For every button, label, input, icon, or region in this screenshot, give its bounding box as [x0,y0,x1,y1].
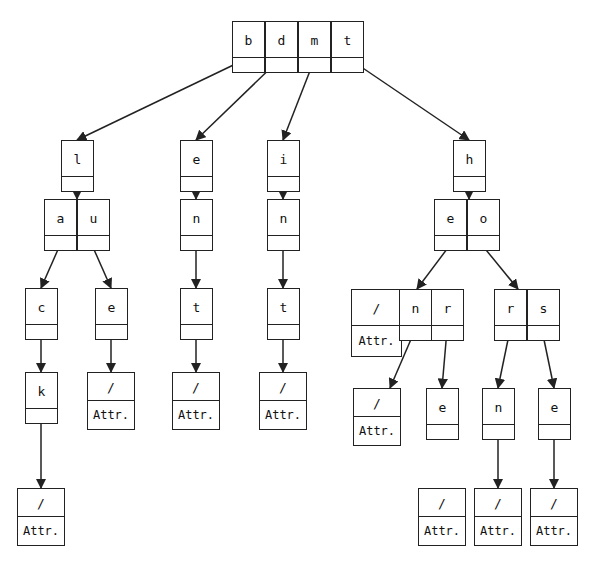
trie-diagram: bdmtlauck/Attr.e/Attr.ent/Attr.int/Attr.… [0,0,596,561]
pointer-cell [232,57,265,73]
key-cell: e [538,388,571,426]
pointer-cell [331,57,364,73]
edge-arrow [417,245,450,289]
key-cell: / [351,289,402,327]
key-cell: r [494,289,527,327]
key-cell: c [25,288,58,326]
key-cell: t [180,288,213,326]
key-cell: n [482,388,515,426]
key-cell: u [77,199,110,237]
terminator-cell: / [259,372,307,402]
key-cell: d [265,21,298,59]
attr-cell: Attr. [259,400,307,430]
key-cell: m [298,21,331,59]
key-cell: n [267,199,300,237]
key-cell: k [25,372,58,410]
pointer-cell [434,235,467,251]
key-cell: e [426,388,459,426]
pointer-cell [399,325,432,341]
edge-arrow [482,245,518,289]
pointer-cell [180,176,213,192]
terminator-cell: / [87,372,135,402]
terminator-cell: / [418,488,466,518]
pointer-cell [77,235,110,251]
attr-cell: Attr. [474,516,522,546]
terminator-cell: / [530,488,578,518]
key-cell: o [467,199,500,237]
key-cell: n [399,289,432,327]
pointer-cell [467,235,500,251]
edge-arrow [92,245,111,288]
terminator-cell: / [353,388,401,418]
terminator-cell: / [172,372,220,402]
pointer-cell [25,324,58,340]
key-cell: l [61,140,94,178]
edge-arrow [41,245,60,288]
pointer-cell [453,176,486,192]
pointer-cell [298,57,331,73]
key-cell: s [527,289,560,327]
pointer-cell [25,408,58,424]
key-cell: n [180,199,213,237]
attr-cell: Attr. [17,516,65,546]
pointer-cell [267,235,300,251]
key-cell: t [267,288,300,326]
edge-arrow [348,58,469,140]
key-cell: i [267,140,300,178]
key-cell: e [95,288,128,326]
key-cell: r [431,289,464,327]
attr-cell: Attr. [87,400,135,430]
key-cell: e [434,199,467,237]
key-cell: b [232,21,265,59]
pointer-cell [61,176,94,192]
pointer-cell [44,235,77,251]
terminator-cell: / [474,488,522,518]
attr-cell: Attr. [418,516,466,546]
attr-cell: Attr. [351,325,402,357]
pointer-cell [431,325,464,341]
pointer-cell [426,424,459,440]
pointer-cell [180,235,213,251]
attr-cell: Attr. [353,416,401,446]
pointer-cell [267,324,300,340]
terminator-cell: / [17,488,65,518]
attr-cell: Attr. [172,400,220,430]
pointer-cell [267,176,300,192]
edge-layer [0,0,596,561]
pointer-cell [95,324,128,340]
key-cell: t [331,21,364,59]
key-cell: h [453,140,486,178]
pointer-cell [538,424,571,440]
key-cell: a [44,199,77,237]
key-cell: e [180,140,213,178]
pointer-cell [494,325,527,341]
pointer-cell [482,424,515,440]
attr-cell: Attr. [530,516,578,546]
edge-arrow [77,58,248,140]
pointer-cell [265,57,298,73]
pointer-cell [180,324,213,340]
pointer-cell [527,325,560,341]
